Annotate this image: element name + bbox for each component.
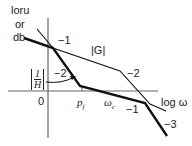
slope-label-thick-1: −1 (58, 35, 71, 46)
wc-label-sub: c (112, 103, 115, 111)
g-label: |G| (91, 45, 105, 56)
wc-label-main: ω (104, 96, 112, 108)
origin-label: 0 (38, 96, 44, 107)
pf-label-sub: f (83, 103, 85, 111)
y-axis-label-2: or (15, 19, 25, 30)
y-axis-label-3: db (13, 32, 25, 43)
slope-label-thin-2: −2 (127, 68, 140, 79)
inverse-h-label: 1 H (31, 69, 44, 90)
wc-label: ωc (104, 97, 115, 111)
slope-label-thick-2: −2 (54, 68, 67, 79)
y-axis-label-1: loru (11, 5, 29, 16)
slope-label-thick-4: −3 (164, 119, 177, 130)
inverse-h-denominator: H (34, 80, 41, 90)
slope-label-thick-3: −1 (126, 104, 139, 115)
pf-label: pf (77, 97, 84, 111)
x-axis-label: log ω (161, 97, 187, 108)
